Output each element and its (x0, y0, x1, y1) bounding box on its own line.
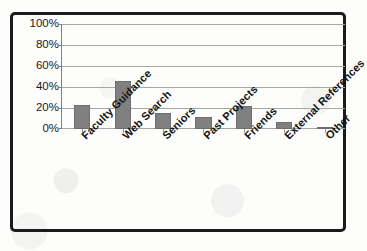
y-axis-tick-label-20: 20% (15, 102, 59, 114)
y-axis-tick-label-80: 80% (15, 39, 59, 51)
chart-frame-border: 100% 80% 60% 40% 20% 0% (10, 12, 346, 232)
y-axis-tick-labels: 100% 80% 60% 40% 20% 0% (13, 15, 59, 235)
y-axis-tick-label-40: 40% (15, 81, 59, 93)
bar-slot-faculty-guidance (62, 24, 102, 129)
chart-container: 100% 80% 60% 40% 20% 0% (13, 15, 349, 235)
y-axis-tick-label-100: 100% (15, 18, 59, 30)
y-axis-tick-label-0: 0% (15, 123, 59, 135)
x-axis-category-labels: Faculty Guidance Web Search Seniors Past… (61, 133, 345, 228)
y-axis-tick-label-60: 60% (15, 60, 59, 72)
